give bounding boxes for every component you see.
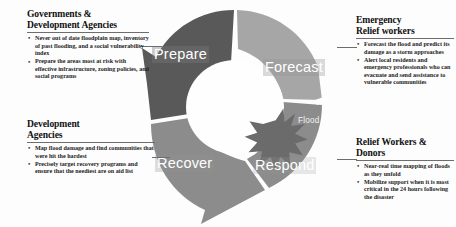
list-item: •Near-real time mapping of floods as the… — [356, 163, 454, 178]
list-item-text: Map flood damage and find communities th… — [35, 145, 154, 159]
callout-emergency: Emergency Relief workers •Forecast the f… — [356, 14, 454, 87]
bullet-icon: • — [28, 58, 30, 66]
list-item: •Precisely target recovery programs and … — [27, 161, 155, 176]
callout-governments: Governments & Development Agencies •Neve… — [27, 8, 149, 81]
callout-emergency-list: •Forecast the flood and predict its dama… — [356, 41, 454, 87]
callout-relief-heading: Relief Workers & Donors — [356, 136, 454, 158]
list-item: •Prepare the areas most at risk with eff… — [27, 58, 149, 81]
list-item-text: Never out of date floodplain map, invent… — [35, 35, 149, 56]
flood-cycle-wheel — [139, 2, 329, 225]
list-item: •Mobilize support when it is most critic… — [356, 179, 454, 202]
callout-development-heading: Development Agencies — [27, 118, 155, 140]
list-item: •Alert local residents and emergency pro… — [356, 57, 454, 87]
list-item-text: Alert local residents and emergency prof… — [364, 57, 450, 86]
callout-relief: Relief Workers & Donors •Near-real time … — [356, 136, 454, 202]
list-item-text: Mobilize support when it is most critica… — [364, 179, 449, 200]
bullet-icon: • — [28, 144, 30, 152]
list-item: •Map flood damage and find communities t… — [27, 145, 155, 160]
list-item-text: Prepare the areas most at risk with effe… — [35, 58, 149, 79]
bullet-icon: • — [357, 162, 359, 170]
bullet-icon: • — [28, 34, 30, 42]
list-item: •Forecast the flood and predict its dama… — [356, 41, 454, 56]
list-item: •Never out of date floodplain map, inven… — [27, 35, 149, 58]
segment-label-forecast[interactable]: Forecast — [263, 59, 325, 76]
connector-relief — [337, 159, 357, 160]
callout-development: Development Agencies •Map flood damage a… — [27, 118, 155, 176]
segment-label-respond[interactable]: Respond — [253, 157, 316, 174]
callout-governments-rule — [27, 32, 149, 33]
list-item-text: Forecast the flood and predict its damag… — [364, 41, 450, 55]
callout-governments-heading: Governments & Development Agencies — [27, 8, 149, 30]
callout-relief-list: •Near-real time mapping of floods as the… — [356, 163, 454, 201]
connector-emergency — [337, 47, 357, 48]
callout-governments-list: •Never out of date floodplain map, inven… — [27, 35, 149, 81]
list-item-text: Near-real time mapping of floods as they… — [364, 163, 450, 177]
callout-development-list: •Map flood damage and find communities t… — [27, 145, 155, 176]
segment-label-recover[interactable]: Recover — [155, 155, 214, 172]
list-item-text: Precisely target recovery programs and e… — [35, 161, 138, 175]
diagram-canvas: Prepare Forecast Respond Recover Flood G… — [0, 0, 456, 227]
bullet-icon: • — [28, 160, 30, 168]
bullet-icon: • — [357, 40, 359, 48]
callout-development-rule — [27, 142, 155, 143]
callout-emergency-heading: Emergency Relief workers — [356, 14, 454, 36]
bullet-icon: • — [357, 178, 359, 186]
callout-emergency-rule — [356, 38, 454, 39]
callout-relief-rule — [356, 160, 454, 161]
bullet-icon: • — [357, 56, 359, 64]
segment-label-prepare[interactable]: Prepare — [152, 46, 209, 63]
flood-event-label: Flood — [298, 116, 319, 125]
